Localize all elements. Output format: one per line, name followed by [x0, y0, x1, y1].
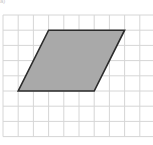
grid-diagram [0, 0, 153, 145]
parallelogram-shape [18, 30, 124, 91]
